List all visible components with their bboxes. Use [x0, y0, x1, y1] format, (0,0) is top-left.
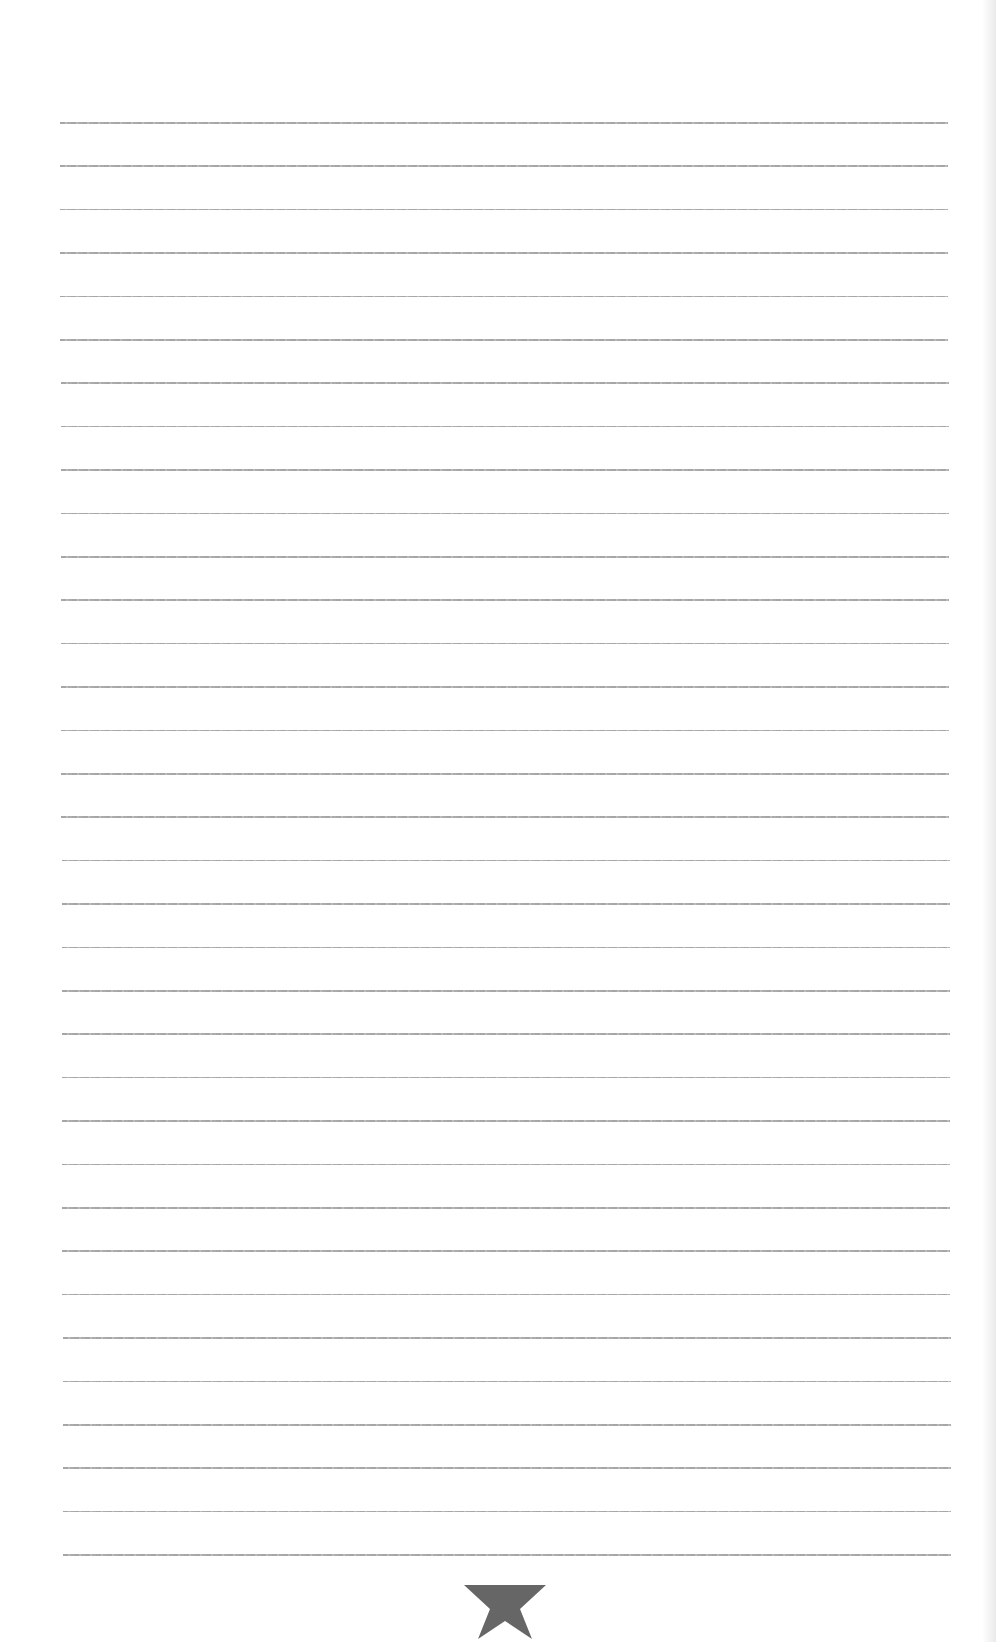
ruled-page	[0, 0, 996, 1642]
ruled-line	[62, 860, 950, 862]
ruled-line	[60, 296, 948, 298]
ruled-line	[62, 1033, 950, 1035]
ruled-line	[62, 1120, 950, 1122]
ruled-line	[61, 686, 949, 688]
ruled-line	[62, 903, 950, 905]
ruled-line	[63, 1467, 951, 1469]
ruled-line	[63, 1554, 951, 1556]
ruled-line	[62, 990, 950, 992]
ruled-line	[62, 947, 950, 949]
ruled-line	[62, 1077, 950, 1079]
ruled-line	[60, 165, 948, 167]
ruled-line	[61, 513, 949, 515]
ruled-line	[61, 773, 949, 775]
ruled-line	[62, 1294, 950, 1296]
ruled-line	[61, 816, 949, 818]
star-icon	[462, 1583, 548, 1642]
ruled-line	[60, 122, 948, 124]
ruled-line	[60, 339, 948, 341]
ruled-line	[62, 1207, 950, 1209]
ruled-line	[63, 1511, 951, 1513]
ruled-line	[63, 1424, 951, 1426]
ruled-line	[61, 556, 949, 558]
ruled-line	[63, 1381, 951, 1383]
page-edge-shadow	[982, 0, 996, 1642]
ruled-line	[60, 209, 948, 211]
ruled-line	[62, 1164, 950, 1166]
ruled-line	[61, 730, 949, 732]
ruled-line	[61, 469, 949, 471]
ruled-line	[61, 599, 949, 601]
ruled-line	[61, 426, 949, 428]
ruled-line	[63, 1337, 951, 1339]
ruled-line	[62, 1250, 950, 1252]
ruled-line	[61, 382, 949, 384]
ruled-line	[61, 643, 949, 645]
ruled-line	[60, 252, 948, 254]
